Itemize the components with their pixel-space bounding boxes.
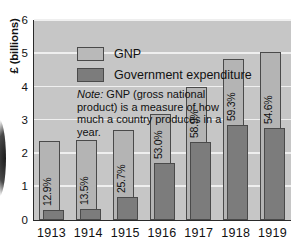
bar-chart: £ (billions) 6543210 12.9%13.5%25.7%53.0… — [0, 0, 297, 252]
legend: GNP Government expenditure — [77, 45, 252, 87]
legend-swatch-gnp — [77, 47, 104, 61]
y-axis-tick-4: 4 — [14, 82, 28, 92]
legend-label-gnp: GNP — [114, 47, 141, 61]
y-axis-tick-5: 5 — [14, 48, 28, 58]
legend-item-gnp: GNP — [77, 45, 252, 62]
bar-government-expenditure-1918 — [227, 125, 248, 220]
bar-government-expenditure-1913 — [43, 210, 64, 220]
chart-note-prefix: Note: — [77, 88, 103, 100]
legend-label-government-expenditure: Government expenditure — [114, 68, 252, 82]
bar-label-1919: 54.6% — [262, 96, 274, 124]
gridline-6 — [34, 19, 291, 21]
legend-item-government-expenditure: Government expenditure — [77, 66, 252, 83]
y-axis-tick-3: 3 — [14, 115, 28, 125]
y-axis-tick-2: 2 — [14, 148, 28, 158]
legend-swatch-government-expenditure — [77, 68, 104, 82]
y-axis-tick-1: 1 — [14, 181, 28, 191]
bar-government-expenditure-1915 — [117, 197, 138, 220]
bar-label-1913: 12.9% — [41, 177, 53, 205]
bar-label-1914: 13.5% — [78, 177, 90, 205]
bar-government-expenditure-1917 — [190, 142, 211, 220]
bar-government-expenditure-1919 — [264, 128, 285, 220]
bar-label-1915: 25.7% — [115, 164, 127, 192]
x-axis-tick-1919: 1919 — [251, 226, 295, 240]
bar-government-expenditure-1914 — [80, 209, 101, 220]
chart-note: Note: GNP (gross national product) is a … — [77, 88, 227, 138]
plot-area: 12.9%13.5%25.7%53.0%58.9%59.3%54.6% GNP … — [33, 20, 291, 221]
bar-government-expenditure-1916 — [154, 163, 175, 220]
bar-label-1918: 59.3% — [225, 92, 237, 120]
y-axis-tick-0: 0 — [14, 215, 28, 225]
y-axis-tick-6: 6 — [14, 15, 28, 25]
